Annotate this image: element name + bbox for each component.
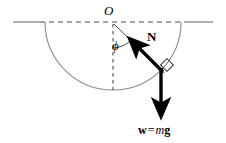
physics-diagram: O ϕ N w=mg bbox=[0, 0, 226, 143]
weight-label: w=mg bbox=[138, 124, 170, 136]
angle-label-phi: ϕ bbox=[112, 39, 119, 52]
diagram-canvas bbox=[0, 0, 226, 143]
normal-force-label-N: N bbox=[147, 30, 156, 43]
center-label-O: O bbox=[104, 4, 113, 17]
weight-label-g: g bbox=[164, 123, 170, 137]
weight-label-m: m bbox=[155, 123, 164, 137]
weight-label-w: w bbox=[138, 123, 147, 137]
